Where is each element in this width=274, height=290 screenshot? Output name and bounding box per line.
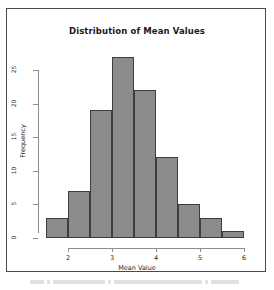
- histogram-bar: [200, 218, 222, 238]
- screenshot-page: Distribution of Mean Values 0510152025 F…: [0, 0, 274, 290]
- x-axis-tick-label: 2: [61, 254, 75, 262]
- histogram-bar: [46, 218, 68, 238]
- histogram-bar: [178, 204, 200, 238]
- histogram-bar: [90, 110, 112, 238]
- caption-smudge: [30, 278, 245, 285]
- y-axis-tick: [33, 70, 38, 71]
- plot-area: [46, 31, 244, 238]
- y-axis-tick-label: 5: [10, 191, 17, 217]
- histogram-bar: [68, 191, 90, 238]
- caption-block: [47, 280, 50, 284]
- y-axis-tick-label: 15: [10, 124, 17, 150]
- y-axis-tick: [33, 104, 38, 105]
- y-axis-tick-label: 25: [10, 57, 17, 83]
- x-axis-tick: [112, 248, 113, 252]
- y-axis-line: [38, 70, 39, 233]
- histogram-bar: [156, 157, 178, 238]
- y-axis-tick-label: 20: [10, 90, 17, 116]
- y-axis-tick-label: 0: [10, 225, 17, 251]
- caption-block: [108, 280, 111, 284]
- x-axis-tick-label: 4: [149, 254, 163, 262]
- y-axis-tick: [33, 204, 38, 205]
- caption-block: [114, 280, 202, 284]
- x-axis-tick-label: 5: [193, 254, 207, 262]
- histogram-bars: [46, 31, 244, 238]
- caption-block: [53, 280, 105, 284]
- x-axis-tick: [156, 248, 157, 252]
- caption-block: [205, 280, 208, 284]
- x-axis-tick-label: 3: [105, 254, 119, 262]
- x-axis-title: Mean Value: [7, 264, 267, 272]
- x-axis-tick-label: 6: [237, 254, 251, 262]
- histogram-bar: [222, 231, 244, 238]
- caption-block: [211, 280, 239, 284]
- figure-frame: Distribution of Mean Values 0510152025 F…: [6, 8, 266, 272]
- caption-block: [30, 280, 44, 284]
- y-axis-tick: [33, 238, 38, 239]
- y-axis-title: Frequency: [19, 111, 27, 171]
- x-axis-tick: [244, 248, 245, 252]
- x-axis-tick: [200, 248, 201, 252]
- y-axis-tick-label: 10: [10, 157, 17, 183]
- x-axis-tick: [68, 248, 69, 252]
- histogram-bar: [134, 90, 156, 238]
- y-axis-tick: [33, 171, 38, 172]
- histogram-bar: [112, 57, 134, 238]
- y-axis-tick: [33, 137, 38, 138]
